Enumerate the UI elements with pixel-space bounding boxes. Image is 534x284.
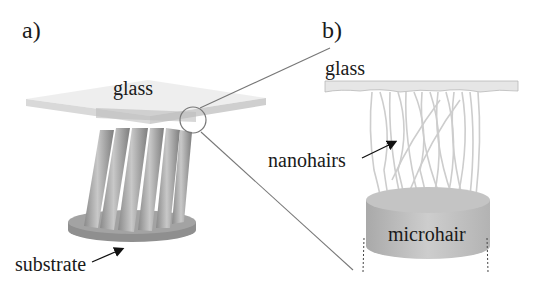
glass-plate-b	[325, 81, 518, 92]
panel-a-label: a)	[22, 18, 41, 42]
panel-b-label: b)	[322, 18, 342, 42]
substrate-label: substrate	[15, 254, 86, 274]
substrate-arrow	[92, 249, 122, 262]
nanohairs-label: nanohairs	[268, 150, 346, 170]
glass-label-b: glass	[325, 58, 365, 78]
glass-label-a: glass	[113, 78, 153, 98]
nanohairs-arrow	[362, 142, 395, 158]
dashed-edge-left	[363, 238, 364, 272]
nanohairs	[370, 92, 479, 196]
microhair-label: microhair	[388, 224, 466, 244]
